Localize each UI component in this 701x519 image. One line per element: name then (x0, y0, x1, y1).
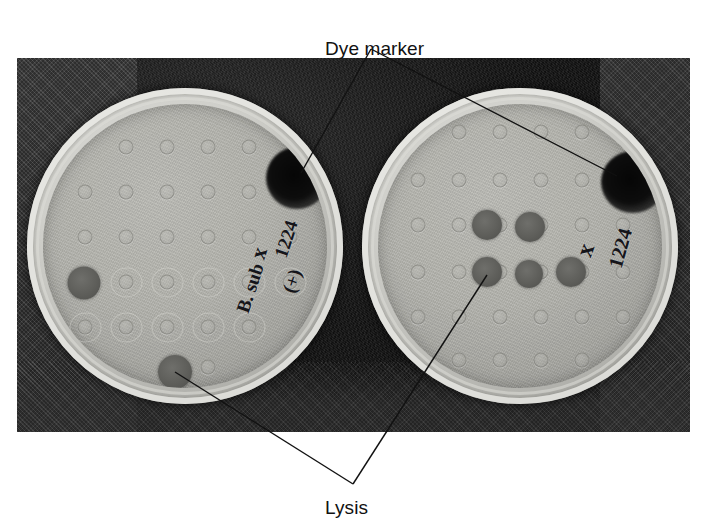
inoculation-spot (411, 265, 426, 280)
inoculation-spot (160, 230, 175, 245)
inoculation-spot (242, 320, 257, 335)
inoculation-spot (575, 353, 590, 368)
inoculation-spot (119, 230, 134, 245)
inoculation-spot (242, 185, 257, 200)
inoculation-spot (493, 353, 508, 368)
inoculation-spot (493, 125, 508, 140)
inoculation-spot (201, 275, 216, 290)
right-plate: x1224 (362, 88, 678, 404)
inoculation-spot (534, 125, 549, 140)
inoculation-spot (411, 218, 426, 233)
inoculation-spot (452, 310, 467, 325)
inoculation-spot (534, 310, 549, 325)
inoculation-spot (411, 310, 426, 325)
agar-surface: x1224 (378, 104, 662, 388)
agar-surface: x1224B. sub(+) (43, 104, 327, 388)
lysis-zone (472, 257, 502, 287)
inoculation-spot (534, 353, 549, 368)
inoculation-spot (201, 230, 216, 245)
lysis-zone (515, 260, 543, 288)
inoculation-spot (201, 185, 216, 200)
inoculation-spot (452, 353, 467, 368)
inoculation-spot (493, 310, 508, 325)
lysis-zone (515, 212, 545, 242)
inoculation-spot (242, 230, 257, 245)
inoculation-spot (119, 140, 134, 155)
inoculation-spot (160, 320, 175, 335)
inoculation-spot (78, 185, 93, 200)
lysis-zone (472, 210, 502, 240)
lysis-zone (556, 257, 586, 287)
inoculation-spot (452, 218, 467, 233)
inoculation-spot (201, 320, 216, 335)
inoculation-spot (160, 140, 175, 155)
inoculation-spot (160, 185, 175, 200)
inoculation-spot (493, 173, 508, 188)
inoculation-spot (242, 140, 257, 155)
lysis-zone (158, 355, 192, 388)
inoculation-spot (452, 125, 467, 140)
annotation-label-dye-marker: Dye marker (325, 38, 424, 60)
petri-dish-photograph: x1224B. sub(+)x1224 (17, 58, 690, 432)
inoculation-spot (119, 320, 134, 335)
inoculation-spot (201, 360, 216, 375)
inoculation-spot (119, 275, 134, 290)
dye-marker-blot (601, 151, 662, 213)
dye-marker-blot (266, 147, 327, 209)
inoculation-spot (575, 125, 590, 140)
inoculation-spot (575, 218, 590, 233)
left-plate: x1224B. sub(+) (27, 88, 343, 404)
inoculation-spot (452, 173, 467, 188)
inoculation-spot (78, 320, 93, 335)
inoculation-spot (411, 173, 426, 188)
annotation-label-lysis: Lysis (325, 497, 368, 519)
inoculation-spot (575, 173, 590, 188)
inoculation-spot (201, 140, 216, 155)
inoculation-spot (78, 230, 93, 245)
inoculation-spot (119, 185, 134, 200)
inoculation-spot (452, 265, 467, 280)
lysis-zone (68, 267, 101, 300)
inoculation-spot (575, 310, 590, 325)
inoculation-spot (616, 310, 631, 325)
inoculation-spot (534, 173, 549, 188)
inoculation-spot (160, 275, 175, 290)
